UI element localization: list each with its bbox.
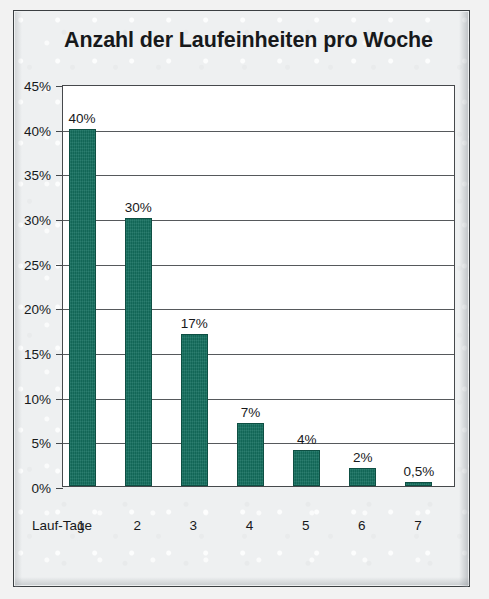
- y-axis-tick: [56, 443, 63, 444]
- y-axis-label: 5%: [31, 436, 51, 451]
- y-axis-label: 25%: [24, 257, 51, 272]
- bar: [125, 218, 152, 486]
- y-axis-tick: [56, 220, 63, 221]
- bar-value-label: 7%: [241, 405, 261, 420]
- x-axis-label: 7: [414, 518, 422, 533]
- bar-value-label: 0,5%: [404, 464, 435, 479]
- gridline: [63, 354, 454, 355]
- bar: [349, 468, 376, 486]
- frame-shadow-right: [459, 12, 468, 587]
- gridline: [63, 265, 454, 266]
- bar: [69, 129, 96, 486]
- plot-area: 0%5%10%15%20%25%30%35%40%45%40%30%17%7%4…: [62, 85, 455, 487]
- chart-screenshot: Anzahl der Laufeinheiten pro Woche 0%5%1…: [0, 0, 489, 599]
- bar: [237, 423, 264, 486]
- gridline: [63, 309, 454, 310]
- bar-value-label: 2%: [353, 450, 373, 465]
- frame-shadow-bottom: [15, 577, 470, 585]
- y-axis-tick: [56, 131, 63, 132]
- frame-shadow-left: [15, 12, 22, 587]
- y-axis-tick: [56, 488, 63, 489]
- y-axis-label: 20%: [24, 302, 51, 317]
- y-axis-label: 45%: [24, 79, 51, 94]
- y-axis-label: 35%: [24, 168, 51, 183]
- y-axis-tick: [56, 175, 63, 176]
- y-axis-tick: [56, 86, 63, 87]
- y-axis-tick: [56, 354, 63, 355]
- gridline: [63, 175, 454, 176]
- gridline: [63, 220, 454, 221]
- y-axis-label: 0%: [31, 481, 51, 496]
- gridline: [63, 399, 454, 400]
- x-axis-label: 1: [77, 518, 85, 533]
- y-axis-tick: [56, 265, 63, 266]
- x-axis-label: 5: [302, 518, 310, 533]
- y-axis-label: 30%: [24, 213, 51, 228]
- y-axis-label: 40%: [24, 123, 51, 138]
- bar: [293, 450, 320, 486]
- bar-value-label: 40%: [69, 111, 96, 126]
- y-axis-label: 15%: [24, 347, 51, 362]
- y-axis-label: 10%: [24, 391, 51, 406]
- chart-title: Anzahl der Laufeinheiten pro Woche: [0, 28, 489, 53]
- x-axis-label: 6: [358, 518, 366, 533]
- bar-value-label: 30%: [125, 200, 152, 215]
- y-axis-tick: [56, 309, 63, 310]
- bar: [181, 334, 208, 486]
- gridline: [63, 131, 454, 132]
- x-axis-label: 4: [246, 518, 254, 533]
- bar-value-label: 4%: [297, 432, 317, 447]
- x-axis-label: 2: [133, 518, 141, 533]
- y-axis-tick: [56, 399, 63, 400]
- bar: [405, 482, 432, 486]
- x-axis-label: 3: [190, 518, 198, 533]
- bar-value-label: 17%: [181, 316, 208, 331]
